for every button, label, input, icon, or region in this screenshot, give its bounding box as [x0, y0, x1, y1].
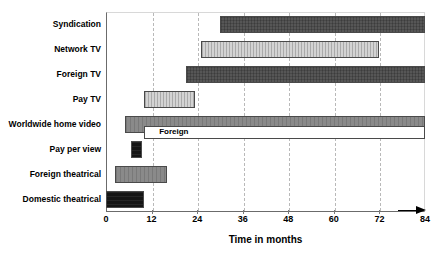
bar-pay-tv[interactable]	[144, 91, 195, 108]
chart-row: Foreign TV	[0, 62, 442, 87]
x-tick-mark-12	[152, 210, 153, 214]
bar-annotation: Foreign	[159, 125, 188, 138]
bar-foreign-theatrical[interactable]	[115, 166, 166, 183]
x-axis-arrow-icon	[398, 206, 426, 215]
x-tick-label-0: 0	[86, 214, 126, 224]
bar-syndication[interactable]	[220, 16, 425, 33]
chart-container: SyndicationNetwork TVForeign TVPay TVWor…	[0, 0, 442, 258]
bar-foreign-tv[interactable]	[186, 66, 425, 83]
chart-row: Pay TV	[0, 87, 442, 112]
arrow-head	[416, 206, 426, 214]
x-tick-mark-36	[243, 210, 244, 214]
bar-network-tv[interactable]	[201, 41, 379, 58]
chart-row: Network TV	[0, 37, 442, 62]
chart-row: Foreign theatrical	[0, 162, 442, 187]
x-tick-label-36: 36	[223, 214, 263, 224]
chart-row: Syndication	[0, 12, 442, 37]
y-axis-label: Foreign TV	[0, 62, 101, 87]
x-axis-ticks: 012243648607284	[0, 214, 442, 230]
y-axis-label: Pay TV	[0, 87, 101, 112]
y-axis-label: Worldwide home video	[0, 112, 101, 137]
arrow-shaft	[398, 210, 418, 211]
chart-row: Pay per view	[0, 137, 442, 162]
x-tick-label-48: 48	[268, 214, 308, 224]
y-axis-label: Pay per view	[0, 137, 101, 162]
x-axis-title: Time in months	[106, 234, 425, 245]
x-tick-label-60: 60	[314, 214, 354, 224]
x-tick-mark-48	[288, 210, 289, 214]
x-tick-label-24: 24	[177, 214, 217, 224]
y-axis-label: Network TV	[0, 37, 101, 62]
bar-domestic-theatrical[interactable]	[106, 191, 144, 208]
x-tick-mark-24	[197, 210, 198, 214]
x-tick-mark-60	[334, 210, 335, 214]
x-tick-label-84: 84	[405, 214, 442, 224]
x-tick-label-12: 12	[132, 214, 172, 224]
y-axis-label: Foreign theatrical	[0, 162, 101, 187]
top-caption	[252, 0, 442, 5]
x-tick-mark-72	[379, 210, 380, 214]
y-axis-label: Domestic theatrical	[0, 187, 101, 212]
x-tick-label-72: 72	[359, 214, 399, 224]
y-axis-label: Syndication	[0, 12, 101, 37]
chart-row: Domestic theatrical	[0, 187, 442, 212]
bar-pay-per-view[interactable]	[131, 141, 142, 158]
